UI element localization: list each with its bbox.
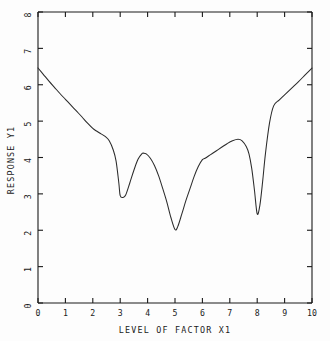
y-tick-label-0: 0 [23, 303, 33, 308]
response-curve-plot: 012345678910012345678 LEVEL OF FACTOR X1… [0, 0, 330, 341]
x-tick-label-3: 3 [118, 308, 123, 318]
chart-figure: 012345678910012345678 LEVEL OF FACTOR X1… [0, 0, 330, 341]
y-tick-label-1: 1 [23, 267, 33, 272]
y-tick-label-6: 6 [23, 85, 33, 90]
y-tick-label-4: 4 [23, 158, 33, 163]
x-tick-label-6: 6 [200, 308, 205, 318]
x-tick-label-8: 8 [255, 308, 260, 318]
x-tick-label-10: 10 [307, 308, 317, 318]
y-tick-label-7: 7 [23, 49, 33, 54]
x-axis-title: LEVEL OF FACTOR X1 [119, 325, 231, 335]
x-tick-label-5: 5 [173, 308, 178, 318]
x-tick-label-4: 4 [145, 308, 150, 318]
x-tick-label-2: 2 [90, 308, 95, 318]
x-tick-label-9: 9 [282, 308, 287, 318]
tick-labels: 012345678910012345678 [23, 12, 317, 318]
x-tick-label-1: 1 [63, 308, 68, 318]
plot-frame [38, 12, 312, 303]
y-tick-label-2: 2 [23, 231, 33, 236]
data-curve [38, 68, 312, 230]
x-tick-label-7: 7 [227, 308, 232, 318]
y-tick-label-3: 3 [23, 194, 33, 199]
y-tick-label-8: 8 [23, 12, 33, 17]
tick-marks [38, 12, 312, 303]
y-axis-title: RESPONSE Y1 [6, 126, 16, 195]
y-tick-label-5: 5 [23, 122, 33, 127]
x-tick-label-0: 0 [36, 308, 41, 318]
